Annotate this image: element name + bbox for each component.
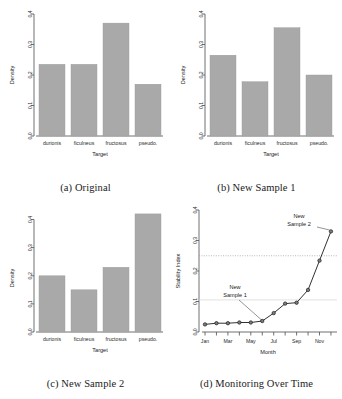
panel-a-bar-chart: 0.0 0.1 0.2 0.3 0.4 Density durionis fic… (0, 0, 171, 171)
panel-d-xtick-sep: Sep (292, 338, 301, 344)
panel-b-bar-2 (274, 28, 300, 136)
panel-d-xlabel: Month (260, 349, 276, 355)
panel-b-bar-chart: 0.0 0.1 0.2 0.3 0.4 Density durionis fic… (171, 0, 342, 171)
panel-a-plot: 0.0 0.1 0.2 0.3 0.4 Density durionis fic… (0, 0, 171, 171)
panel-d-ytick-0: 0.0 (192, 328, 198, 335)
panel-d-xtick-mar: Mar (223, 338, 232, 344)
panel-d-annotation-2-leader (317, 227, 330, 230)
panel-d-ytick-4: 0.4 (192, 206, 198, 213)
panel-d-xtick-jul: Jul (270, 338, 277, 344)
panel-c-ytick-2: 0.2 (27, 272, 33, 279)
panel-c-new-sample-2: 0.0 0.1 0.2 0.3 0.4 Density durionis fic… (0, 196, 171, 395)
panel-d-point (306, 288, 309, 291)
panel-a-xlabel: Target (92, 151, 108, 157)
panel-a-bar-0 (39, 64, 65, 136)
panel-a-bar-1 (71, 64, 97, 136)
panel-c-plot: 0.0 0.1 0.2 0.3 0.4 Density durionis fic… (0, 196, 171, 367)
panel-b-xtick-3: pseudo. (310, 140, 328, 146)
panel-a-ytick-0: 0.0 (27, 132, 33, 139)
panel-a-xtick-1: ficulneus (74, 140, 95, 146)
panel-c-bar-chart: 0.0 0.1 0.2 0.3 0.4 Density durionis fic… (0, 196, 171, 367)
panel-d-ytick-3: 0.3 (192, 237, 198, 244)
panel-d-annotation-2-line2: Sample 2 (287, 221, 311, 227)
panel-d-annotation-2-line1: New (293, 213, 305, 219)
panel-d-point (249, 321, 252, 324)
panel-c-bar-1 (71, 290, 97, 332)
panel-b-bar-0 (210, 55, 236, 136)
panel-c-xtick-0: durionis (43, 336, 62, 342)
panel-c-ytick-1: 0.1 (27, 300, 33, 307)
panel-a-original: 0.0 0.1 0.2 0.3 0.4 Density durionis fic… (0, 0, 171, 199)
panel-d-xtick-may: May (246, 338, 256, 344)
panel-d-ytick-2: 0.2 (192, 267, 198, 274)
panel-d-point (215, 322, 218, 325)
panel-a-ytick-2: 0.2 (27, 71, 33, 78)
panel-a-bar-2 (103, 23, 129, 136)
panel-d-point (272, 311, 275, 314)
panel-a-xtick-0: durionis (43, 140, 62, 146)
panel-d-line-chart: 0.0 0.1 0.2 0.3 0.4 Stability Index (171, 196, 342, 367)
figure-panel-grid: 0.0 0.1 0.2 0.3 0.4 Density durionis fic… (0, 0, 342, 399)
panel-b-ytick-0: 0.0 (198, 132, 204, 139)
panel-d-annotation-1-line1: New (229, 284, 241, 290)
panel-d-point (203, 323, 206, 326)
panel-a-ytick-3: 0.3 (27, 41, 33, 48)
panel-a-xtick-2: fructosus (105, 140, 126, 146)
panel-a-ytick-4: 0.4 (27, 10, 33, 17)
panel-c-bar-0 (39, 276, 65, 332)
panel-c-caption: (c) New Sample 2 (0, 378, 171, 389)
panel-b-ytick-4: 0.4 (198, 10, 204, 17)
panel-b-caption: (b) New Sample 1 (171, 182, 342, 193)
panel-c-xtick-2: fructosus (105, 336, 126, 342)
panel-d-point (283, 302, 286, 305)
panel-d-plot: 0.0 0.1 0.2 0.3 0.4 Stability Index (171, 196, 342, 367)
panel-b-xtick-0: durionis (214, 140, 233, 146)
panel-c-ytick-3: 0.3 (27, 244, 33, 251)
panel-d-xtick-nov: Nov (315, 338, 325, 344)
panel-a-ytick-1: 0.1 (27, 102, 33, 109)
panel-b-ylabel: Density (180, 65, 186, 84)
panel-d-point (238, 321, 241, 324)
panel-d-annotation-1-leader (239, 300, 261, 320)
panel-b-xtick-2: fructosus (276, 140, 297, 146)
panel-b-new-sample-1: 0.0 0.1 0.2 0.3 0.4 Density durionis fic… (171, 0, 342, 199)
panel-d-point (318, 259, 321, 262)
panel-b-xtick-1: ficulneus (245, 140, 266, 146)
panel-c-ytick-0: 0.0 (27, 328, 33, 335)
panel-d-monitoring-over-time: 0.0 0.1 0.2 0.3 0.4 Stability Index (171, 196, 342, 395)
panel-d-point (226, 322, 229, 325)
panel-b-ytick-2: 0.2 (198, 71, 204, 78)
panel-b-ytick-3: 0.3 (198, 41, 204, 48)
panel-d-ytick-1: 0.1 (192, 298, 198, 305)
panel-c-bar-3 (135, 214, 161, 332)
panel-a-xtick-3: pseudo. (139, 140, 157, 146)
panel-c-bar-2 (103, 267, 129, 332)
panel-c-ylabel: Density (9, 268, 15, 287)
panel-d-point (261, 319, 264, 322)
panel-d-series-line (205, 231, 331, 324)
panel-a-ylabel: Density (9, 65, 15, 84)
panel-b-ytick-1: 0.1 (198, 102, 204, 109)
panel-c-xtick-3: pseudo. (139, 336, 157, 342)
panel-a-caption: (a) Original (0, 182, 171, 193)
panel-d-xtick-jan: Jan (201, 338, 209, 344)
panel-c-ytick-4: 0.4 (27, 216, 33, 223)
panel-d-point (329, 230, 332, 233)
panel-b-plot: 0.0 0.1 0.2 0.3 0.4 Density durionis fic… (171, 0, 342, 171)
panel-d-ylabel: Stability Index (175, 253, 181, 288)
panel-c-xlabel: Target (92, 347, 108, 353)
panel-d-point (295, 301, 298, 304)
panel-b-bar-3 (306, 75, 332, 136)
panel-b-xlabel: Target (263, 151, 279, 157)
panel-d-caption: (d) Monitoring Over Time (171, 378, 342, 389)
panel-d-annotation-1-line2: Sample 1 (223, 292, 247, 298)
panel-c-xtick-1: ficulneus (74, 336, 95, 342)
panel-a-bar-3 (135, 84, 161, 136)
panel-b-bar-1 (242, 82, 268, 136)
